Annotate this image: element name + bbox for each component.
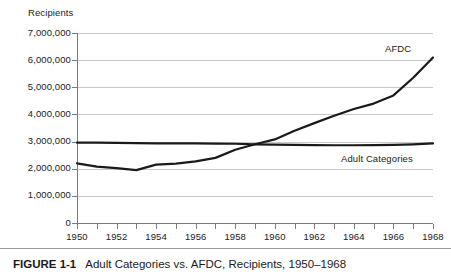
y-tick-marks-group	[72, 34, 77, 224]
chart-area: Recipients 01,000,0002,000,0003,000,0004…	[0, 0, 451, 245]
x-tick-label: 1966	[373, 231, 413, 242]
x-tick-label: 1960	[255, 231, 295, 242]
y-tick-label: 6,000,000	[5, 54, 71, 65]
x-tick-label: 1968	[413, 231, 451, 242]
x-tick-label: 1950	[57, 231, 97, 242]
caption-text: Adult Categories vs. AFDC, Recipients, 1…	[85, 258, 346, 270]
y-tick-label: 0	[5, 217, 71, 228]
y-tick-label: 5,000,000	[5, 81, 71, 92]
y-tick-label: 7,000,000	[5, 27, 71, 38]
gridlines-group	[77, 34, 433, 197]
x-tick-label: 1954	[136, 231, 176, 242]
y-axis-title: Recipients	[28, 7, 73, 18]
x-tick-label: 1956	[176, 231, 216, 242]
x-tick-label: 1958	[215, 231, 255, 242]
x-tick-label: 1962	[294, 231, 334, 242]
figure-caption: FIGURE 1-1 Adult Categories vs. AFDC, Re…	[0, 253, 451, 274]
series-label-adult-categories: Adult Categories	[341, 153, 413, 164]
figure-number: FIGURE 1-1	[13, 258, 76, 270]
series-label-afdc: AFDC	[385, 43, 411, 54]
x-tick-label: 1952	[97, 231, 137, 242]
y-tick-label: 4,000,000	[5, 108, 71, 119]
x-tick-label: 1964	[334, 231, 374, 242]
y-tick-label: 2,000,000	[5, 162, 71, 173]
caption-divider	[0, 248, 451, 249]
y-tick-label: 1,000,000	[5, 189, 71, 200]
figure-container: Recipients 01,000,0002,000,0003,000,0004…	[0, 0, 451, 274]
x-tick-marks-group	[78, 224, 434, 229]
axes-group	[77, 33, 433, 224]
y-tick-label: 3,000,000	[5, 135, 71, 146]
series-line-adult-categories	[77, 143, 433, 146]
